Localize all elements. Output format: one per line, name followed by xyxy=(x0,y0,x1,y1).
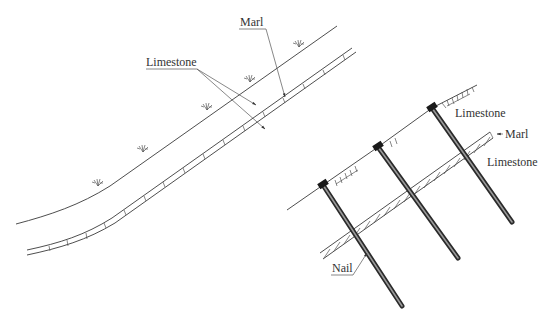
marl-band-bottom xyxy=(27,52,356,255)
right-panel: Limestone Marl Limestone Nail xyxy=(287,85,538,306)
slope-nailing-diagram: Marl Limestone xyxy=(0,0,552,312)
grass-tuft-icon xyxy=(293,40,304,47)
label-nail: Nail xyxy=(332,261,353,275)
grass-tuft-icon xyxy=(137,145,148,152)
label-limestone-lower: Limestone xyxy=(487,155,538,169)
marl-leader-arrow xyxy=(266,29,285,97)
limestone-leader-arrow-lower xyxy=(197,69,265,129)
ground-hatching-upper xyxy=(442,87,474,108)
soil-nail-2 xyxy=(372,141,458,258)
grass-tuft-icon xyxy=(244,75,255,82)
label-marl-right: Marl xyxy=(505,127,529,141)
left-panel: Marl Limestone xyxy=(16,15,356,255)
nail-leader xyxy=(353,253,367,275)
label-limestone-left: Limestone xyxy=(146,55,197,69)
marl-band-hatch-right xyxy=(324,132,493,258)
label-limestone-upper: Limestone xyxy=(455,106,506,120)
limestone-leader-arrow-upper xyxy=(197,69,256,105)
label-marl-left: Marl xyxy=(240,15,264,29)
grass-tuft-icon xyxy=(92,179,103,186)
marl-band-top xyxy=(27,48,352,250)
grass-tuft-icon xyxy=(201,103,212,110)
soil-nail-1 xyxy=(317,179,402,306)
